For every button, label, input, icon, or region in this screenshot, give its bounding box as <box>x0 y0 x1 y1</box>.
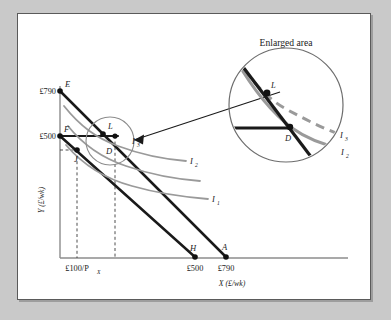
budget-lines <box>60 91 226 257</box>
curve-label-I3: I <box>131 136 136 146</box>
x-tick-label-500: £500 <box>187 264 204 273</box>
point-marker-L <box>100 131 106 137</box>
x-tick-label-100px: £100/P <box>65 264 89 273</box>
curve-label-I2-sub: 2 <box>195 162 198 168</box>
x-axis-title: X (£/wk) <box>218 279 246 288</box>
inset-indifference-curve-3 <box>237 58 352 138</box>
point-marker-H <box>192 254 198 260</box>
inset-point-marker-L <box>264 90 271 97</box>
budget-line-FH <box>60 136 195 257</box>
inset-budget-line <box>237 59 318 166</box>
x-tick-label-100px-sub: X <box>96 269 101 275</box>
point-marker-D <box>112 133 117 138</box>
y-tick-label-500: £500 <box>39 132 56 141</box>
point-label-J: J <box>74 154 79 164</box>
point-label-L: L <box>107 121 113 131</box>
point-marker-J <box>74 147 80 153</box>
point-label-H: H <box>189 243 197 253</box>
curve-label-I1-sub: 1 <box>217 200 220 206</box>
x-tick-labels: £100/P X £500 £790 <box>65 264 234 275</box>
y-tick-label-790: £790 <box>39 87 56 96</box>
budget-line-EA <box>60 91 226 257</box>
indifference-curves <box>64 106 208 199</box>
point-label-A: A <box>221 242 228 252</box>
inset-circle <box>229 48 343 162</box>
inset-point-marker-D <box>287 124 293 130</box>
inset-title: Enlarged area <box>260 37 314 48</box>
magnifier-connector <box>134 92 280 140</box>
point-marker-F <box>57 133 63 139</box>
curve-label-I1: I <box>211 194 216 204</box>
inset-curve-label-I2-sub: 2 <box>346 153 349 159</box>
inset-curve-label-I3: I <box>339 130 344 140</box>
point-label-E: E <box>64 79 71 89</box>
curve-label-I2: I <box>189 156 194 166</box>
point-label-D: D <box>105 146 113 156</box>
inset-point-label-L: L <box>270 80 276 90</box>
indifference-curve-2 <box>68 126 200 181</box>
point-label-F: F <box>63 124 70 134</box>
curve-label-I3-sub: 3 <box>136 142 140 148</box>
figure-root: £790 £500 E F L D J H A I 3 I 2 I 1 £100… <box>0 0 391 320</box>
inset-curve-label-I2: I <box>340 147 345 157</box>
inset-point-label-D: D <box>284 133 292 143</box>
economics-diagram: £790 £500 E F L D J H A I 3 I 2 I 1 £100… <box>18 14 370 299</box>
x-tick-label-790: £790 <box>218 264 235 273</box>
point-marker-E <box>57 88 63 94</box>
enlarged-inset: Enlarged area <box>228 37 352 166</box>
main-axes <box>60 86 348 258</box>
inset-curve-label-I3-sub: 3 <box>344 136 348 142</box>
figure-panel: £790 £500 E F L D J H A I 3 I 2 I 1 £100… <box>17 13 371 300</box>
point-marker-A <box>223 254 229 260</box>
y-axis-title: Y (£/wk) <box>37 187 46 214</box>
